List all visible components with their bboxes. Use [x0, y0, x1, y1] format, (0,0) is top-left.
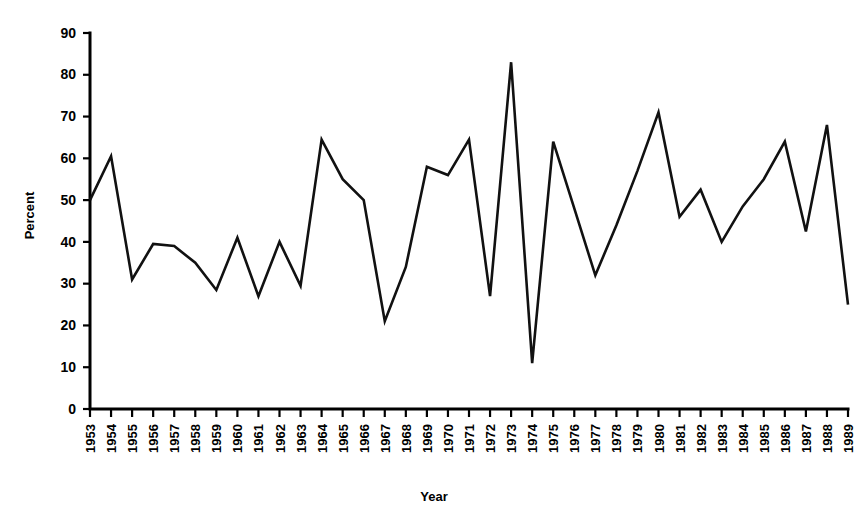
x-tick-label: 1962	[273, 424, 288, 453]
x-tick-label: 1973	[504, 424, 519, 453]
x-tick-label: 1966	[357, 424, 372, 453]
x-tick-label: 1983	[715, 424, 730, 453]
y-axis-tick-labels: 0102030405060708090	[60, 25, 76, 417]
x-tick-label: 1982	[694, 424, 709, 453]
x-tick-label: 1974	[525, 423, 540, 453]
y-tick-label: 60	[60, 150, 76, 166]
y-tick-label: 50	[60, 192, 76, 208]
x-tick-label: 1960	[230, 424, 245, 453]
y-axis-title-container: Percent	[10, 0, 50, 430]
chart-plot-area: 0102030405060708090 19531954195519561957…	[0, 0, 868, 520]
x-tick-label: 1980	[652, 424, 667, 453]
x-tick-label: 1978	[609, 424, 624, 453]
x-tick-label: 1977	[588, 424, 603, 453]
x-axis-tick-labels: 1953195419551956195719581959196019611962…	[83, 423, 856, 453]
x-tick-label: 1968	[399, 424, 414, 453]
x-tick-label: 1956	[146, 424, 161, 453]
x-tick-label: 1957	[167, 424, 182, 453]
x-tick-label: 1989	[841, 424, 856, 453]
x-tick-label: 1972	[483, 424, 498, 453]
x-tick-label: 1967	[378, 424, 393, 453]
x-tick-label: 1965	[336, 424, 351, 453]
y-tick-label: 90	[60, 25, 76, 41]
x-tick-label: 1985	[757, 424, 772, 453]
x-tick-label: 1981	[673, 424, 688, 453]
x-axis-title: Year	[420, 489, 447, 504]
x-tick-label: 1979	[630, 424, 645, 453]
y-tick-label: 20	[60, 317, 76, 333]
x-tick-label: 1976	[567, 424, 582, 453]
x-tick-label: 1958	[188, 424, 203, 453]
x-tick-label: 1961	[251, 424, 266, 453]
line-chart: 0102030405060708090 19531954195519561957…	[0, 0, 868, 520]
y-tick-label: 70	[60, 108, 76, 124]
y-tick-label: 40	[60, 234, 76, 250]
x-tick-label: 1959	[209, 424, 224, 453]
data-series-line	[90, 62, 848, 363]
x-tick-label: 1955	[125, 424, 140, 453]
x-tick-label: 1963	[294, 424, 309, 453]
x-tick-label: 1984	[736, 423, 751, 453]
x-tick-label: 1987	[799, 424, 814, 453]
y-axis-title: Percent	[23, 191, 38, 239]
x-tick-label: 1969	[420, 424, 435, 453]
x-tick-label: 1986	[778, 424, 793, 453]
y-tick-label: 30	[60, 275, 76, 291]
x-tick-label: 1970	[441, 424, 456, 453]
x-tick-label: 1953	[83, 424, 98, 453]
x-tick-label: 1975	[546, 424, 561, 453]
y-tick-label: 10	[60, 359, 76, 375]
x-tick-label: 1954	[104, 423, 119, 453]
x-tick-label: 1964	[315, 423, 330, 453]
x-tick-label: 1971	[462, 424, 477, 453]
x-axis-title-container: Year	[0, 487, 868, 505]
x-tick-label: 1988	[820, 424, 835, 453]
y-tick-label: 80	[60, 66, 76, 82]
y-tick-label: 0	[68, 401, 76, 417]
